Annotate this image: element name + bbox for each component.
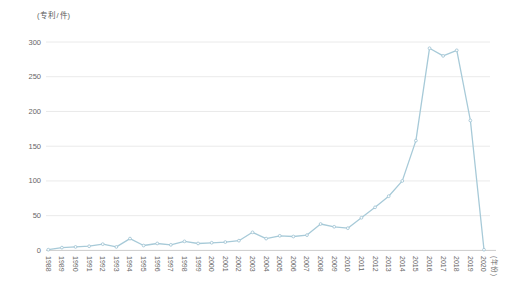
x-tick-label: 2009	[331, 256, 338, 272]
data-point	[360, 216, 363, 219]
line-chart-svg: 0501001502002503001988198919901991199219…	[0, 0, 532, 297]
data-point	[387, 195, 390, 198]
x-tick-label: 2017	[440, 256, 447, 272]
x-tick-label: 2008	[317, 256, 324, 272]
x-tick-label: 1990	[72, 256, 79, 272]
x-tick-label: 1989	[58, 256, 65, 272]
data-point	[319, 223, 322, 226]
data-point	[428, 47, 431, 50]
y-axis-unit-label: (专利/件)	[37, 9, 71, 20]
x-tick-label: 2007	[303, 256, 310, 272]
data-point	[88, 245, 91, 248]
y-tick-label: 0	[37, 246, 41, 255]
x-tick-label: 2002	[235, 256, 242, 272]
data-point	[251, 231, 254, 234]
data-point	[374, 206, 377, 209]
x-tick-label: 2004	[263, 256, 270, 272]
data-point	[101, 243, 104, 246]
x-tick-label: 2011	[358, 256, 365, 271]
x-tick-label: 2016	[426, 256, 433, 272]
data-point	[469, 119, 472, 122]
data-point	[129, 237, 132, 240]
x-tick-label: 2015	[412, 256, 419, 272]
x-tick-label: 2006	[290, 256, 297, 272]
x-tick-label: 2010	[344, 256, 351, 272]
x-tick-label: 2019	[467, 256, 474, 272]
y-tick-label: 250	[28, 72, 41, 81]
x-axis-unit-label: (年份)	[490, 256, 499, 276]
data-point	[346, 227, 349, 230]
data-point	[74, 246, 77, 249]
x-tick-label: 2014	[399, 256, 406, 272]
x-tick-label: 1996	[154, 256, 161, 272]
x-tick-label: 2013	[385, 256, 392, 272]
y-tick-label: 200	[28, 107, 41, 116]
x-tick-label: 2003	[249, 256, 256, 272]
data-point	[442, 54, 445, 57]
data-point	[156, 242, 159, 245]
x-tick-label: 1993	[113, 256, 120, 272]
data-point	[47, 248, 50, 251]
x-tick-label: 1995	[140, 256, 147, 272]
data-point	[265, 237, 268, 240]
data-point	[115, 246, 118, 249]
y-tick-label: 300	[28, 38, 41, 47]
x-tick-label: 1991	[86, 256, 93, 272]
x-tick-label: 2012	[372, 256, 379, 272]
data-point	[415, 139, 418, 142]
x-tick-label: 1992	[99, 256, 106, 272]
data-point	[238, 239, 241, 242]
x-tick-label: 2018	[453, 256, 460, 272]
x-tick-label: 2005	[276, 256, 283, 272]
data-point	[333, 225, 336, 228]
x-tick-label: 2000	[208, 256, 215, 272]
patent-trend-chart: (专利/件) 050100150200250300198819891990199…	[0, 0, 532, 297]
y-tick-label: 150	[28, 142, 41, 151]
data-point	[306, 234, 309, 237]
data-point	[483, 248, 486, 251]
x-tick-label: 1999	[195, 256, 202, 272]
data-point	[401, 180, 404, 183]
data-point	[169, 243, 172, 246]
x-tick-label: 2001	[222, 256, 229, 272]
data-point	[183, 240, 186, 243]
x-tick-label: 1988	[45, 256, 52, 272]
data-point	[292, 235, 295, 238]
y-tick-label: 100	[28, 176, 41, 185]
data-point	[224, 241, 227, 244]
data-line	[48, 48, 484, 249]
data-point	[455, 49, 458, 52]
x-tick-label: 1997	[167, 256, 174, 272]
y-tick-label: 50	[33, 211, 41, 220]
x-tick-label: 2020	[480, 256, 487, 272]
x-tick-label: 1994	[126, 256, 133, 272]
data-point	[210, 241, 213, 244]
data-point	[197, 242, 200, 245]
data-point	[278, 234, 281, 237]
x-tick-label: 1998	[181, 256, 188, 272]
data-point	[61, 246, 64, 249]
data-point	[142, 244, 145, 247]
